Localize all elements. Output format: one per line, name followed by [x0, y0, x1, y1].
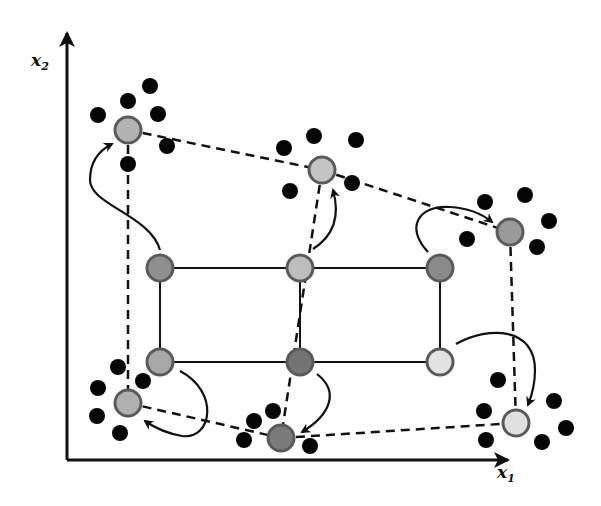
dashed-edge [281, 170, 322, 438]
neighbor-dot [546, 393, 562, 409]
grid-node [427, 255, 453, 281]
mapping-arrow [145, 371, 207, 436]
neighbor-dot [265, 403, 281, 419]
grid-node [427, 349, 453, 375]
neighbor-dot [344, 175, 360, 191]
x1-axis-label: x1 [496, 462, 515, 485]
neighbor-dot [89, 408, 105, 424]
neighbor-dot [282, 183, 298, 199]
mapping-arrow [456, 333, 535, 405]
neighbor-dot [112, 425, 128, 441]
neighbor-dot [150, 106, 166, 122]
neighbor-dot [534, 434, 550, 450]
neighbor-dot [348, 132, 364, 148]
neighbor-dot [459, 231, 475, 247]
neighbor-dot [110, 359, 126, 375]
neighbor-dot [246, 413, 262, 429]
mapping-arrows [90, 144, 535, 436]
neighbor-dot [529, 239, 545, 255]
neighbor-dot [302, 438, 318, 454]
dashed-edge [510, 232, 516, 423]
neighbor-dot [236, 432, 252, 448]
grid-node [147, 349, 173, 375]
neighbor-dot [90, 380, 106, 396]
mapped-node [497, 219, 523, 245]
mapping-arrow [302, 374, 330, 432]
neighbor-dot [558, 420, 574, 436]
neighbor-dot [541, 213, 557, 229]
neighbor-dot [135, 373, 151, 389]
neighborhood-mapping-diagram: x1 x2 [0, 0, 601, 506]
mapped-nodes [115, 117, 529, 451]
neighbor-dot [120, 93, 136, 109]
neighbor-dot [490, 372, 506, 388]
mapped-node [115, 117, 141, 143]
neighbor-dot [517, 187, 533, 203]
grid-node [287, 255, 313, 281]
neighbor-dot [142, 78, 158, 94]
neighbor-dot [478, 432, 494, 448]
neighbor-dot [306, 128, 322, 144]
mapped-node [115, 390, 141, 416]
neighbor-dot [120, 156, 136, 172]
mapped-node [268, 425, 294, 451]
neighbor-dot [476, 403, 492, 419]
neighbor-dot [276, 140, 292, 156]
mapping-arrow [313, 190, 336, 249]
dashed-edge [128, 130, 322, 170]
neighbor-dot [477, 194, 493, 210]
neighbor-dot [159, 138, 175, 154]
grid-node [147, 255, 173, 281]
grid-node [287, 349, 313, 375]
neighbor-dot [90, 107, 106, 123]
x2-axis-label: x2 [30, 50, 49, 73]
mapped-node [503, 410, 529, 436]
mapped-node [309, 157, 335, 183]
